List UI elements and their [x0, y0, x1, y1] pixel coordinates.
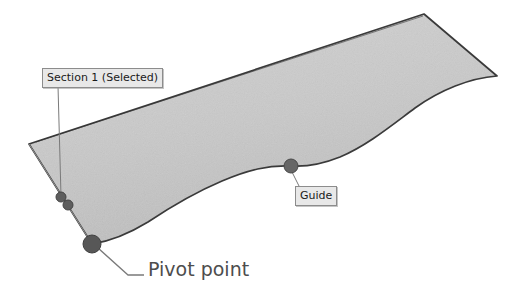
surface-fill[interactable] [29, 14, 497, 244]
pivot-point-node[interactable] [83, 235, 101, 253]
surface-scene [0, 0, 513, 306]
surface-group[interactable] [29, 14, 497, 244]
pivot-point-callout-label: Pivot point [148, 258, 249, 280]
section-handle-upper-node[interactable] [56, 192, 66, 202]
guide-point-node[interactable] [284, 159, 298, 173]
section-handle-lower-node[interactable] [63, 200, 73, 210]
guide-callout-label[interactable]: Guide [295, 186, 337, 206]
section-callout-label[interactable]: Section 1 (Selected) [42, 68, 163, 88]
pivot-leader-line [98, 248, 144, 275]
diagram-canvas: Section 1 (Selected) Guide Pivot point [0, 0, 513, 306]
